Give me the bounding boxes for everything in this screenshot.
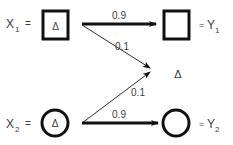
svg-text:Y: Y xyxy=(207,117,215,131)
svg-text:0.9: 0.9 xyxy=(112,109,126,120)
y2-label: = Y 2 xyxy=(199,117,220,134)
svg-text:=: = xyxy=(25,18,31,29)
delta-icon: Δ xyxy=(52,21,59,32)
svg-text:X: X xyxy=(6,17,14,31)
svg-text:=: = xyxy=(199,20,204,30)
svg-text:1: 1 xyxy=(215,26,220,35)
y2-circle-node xyxy=(163,110,189,136)
edge-x1-delta: 0.1 xyxy=(82,25,150,68)
delta-node-icon: Δ xyxy=(174,68,182,80)
svg-text:=: = xyxy=(25,118,31,129)
delta-icon: Δ xyxy=(52,118,59,129)
y1-label: = Y 1 xyxy=(199,18,220,35)
svg-text:2: 2 xyxy=(215,125,220,134)
svg-text:=: = xyxy=(199,119,204,129)
edge-x1-y1: 0.9 xyxy=(82,10,156,24)
x1-label: X 1 = xyxy=(6,17,31,34)
svg-text:0.1: 0.1 xyxy=(131,87,145,98)
y1-square-node xyxy=(164,11,189,39)
svg-text:1: 1 xyxy=(15,25,20,34)
x2-circle-node: Δ xyxy=(42,110,68,136)
x1-square-node: Δ xyxy=(43,11,68,39)
svg-text:0.9: 0.9 xyxy=(112,10,126,21)
transition-diagram: X 1 = Δ X 2 = Δ 0.9 0.1 0.1 0.9 Δ xyxy=(0,0,233,145)
x2-label: X 2 = xyxy=(6,117,31,134)
svg-text:2: 2 xyxy=(15,125,20,134)
svg-text:X: X xyxy=(6,117,14,131)
edge-x2-y2: 0.9 xyxy=(82,109,158,123)
svg-text:0.1: 0.1 xyxy=(115,41,129,52)
svg-text:Y: Y xyxy=(207,18,215,32)
